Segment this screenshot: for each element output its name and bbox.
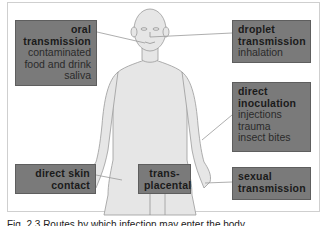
inoculation-detail-3: insect bites (238, 132, 305, 144)
skin-title-2: contact (21, 180, 90, 192)
sexual-title-2: transmission (238, 183, 305, 195)
droplet-detail-1: inhalation (238, 47, 305, 59)
direct-skin-contact-label: direct skin contact (15, 164, 96, 194)
figure-caption: Fig. 2.3 Routes by which infection may e… (7, 219, 245, 226)
transplacental-label: trans- placental (138, 164, 191, 194)
skin-title-1: direct skin (21, 168, 90, 180)
oral-transmission-label: oral transmission contaminated food and … (15, 20, 97, 86)
droplet-title-1: droplet (238, 24, 305, 36)
sexual-transmission-label: sexual transmission (232, 167, 311, 200)
oral-detail-1: contaminated (21, 47, 91, 59)
inoculation-title-1: direct (238, 86, 305, 98)
oral-title-1: oral (21, 24, 91, 36)
sexual-title-1: sexual (238, 171, 305, 183)
oral-detail-3: saliva (21, 70, 91, 82)
direct-inoculation-label: direct inoculation injections trauma ins… (232, 82, 311, 152)
placental-title-1: trans- (144, 168, 185, 180)
placental-title-2: placental (144, 180, 185, 192)
inoculation-detail-1: injections (238, 109, 305, 121)
droplet-transmission-label: droplet transmission inhalation (232, 20, 311, 63)
